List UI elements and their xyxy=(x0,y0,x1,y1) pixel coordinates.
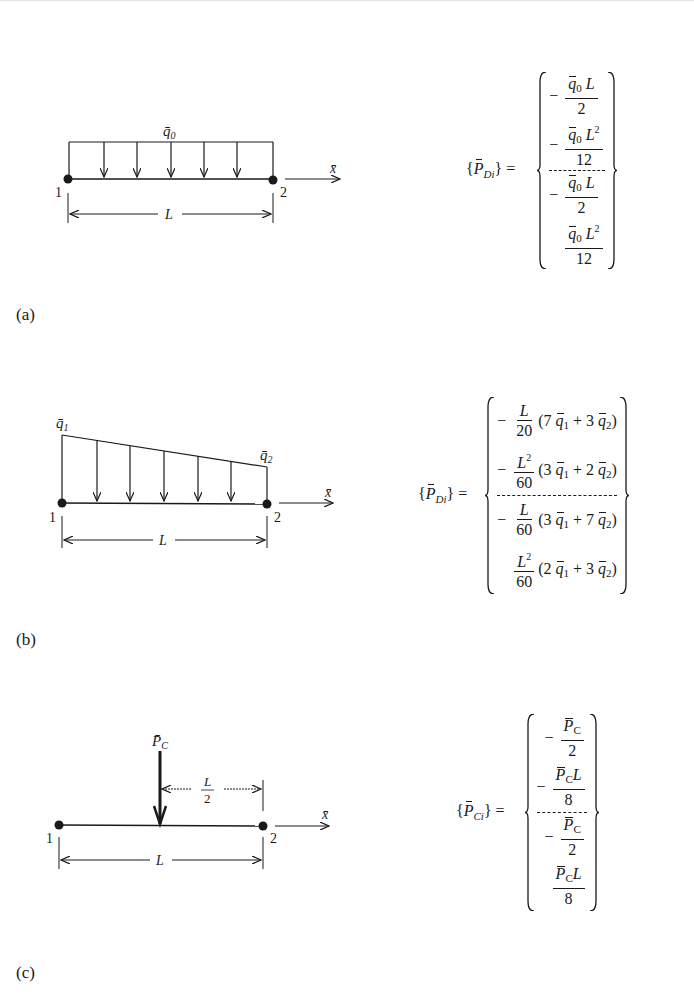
beam xyxy=(59,825,263,826)
node-1 xyxy=(64,175,73,184)
node-1 xyxy=(58,499,67,508)
equivalent-load-equation-b: {PDi} = −L20(7 q1 + 3 q2) −L260(3 q1 + 2… xyxy=(418,373,629,617)
left-brace xyxy=(525,714,535,911)
beam-diagram-linear-load: q̄1 q̄2 1 2 x̄ L xyxy=(0,340,360,580)
panel-a: q̄0 1 2 x̄ L {PDi} = −q0 L2 −q0 L212 −q0… xyxy=(0,0,694,330)
length-label: L xyxy=(158,533,167,548)
matrix-row-3: −L60(3 q1 + 7 q2) xyxy=(497,496,617,545)
load-label-q2: q̄2 xyxy=(260,447,273,465)
node-2-label: 2 xyxy=(274,510,281,525)
node-2 xyxy=(269,176,278,185)
x-axis-label: x̄ xyxy=(324,485,332,500)
right-brace xyxy=(607,72,617,269)
node-2-label: 2 xyxy=(280,185,287,200)
matrix-row-2: −q0 L212 xyxy=(549,121,604,170)
load-label-pc: P̄C xyxy=(151,733,168,751)
node-1 xyxy=(55,821,64,830)
matrix-row-1: −L20(7 q1 + 3 q2) xyxy=(497,397,617,446)
x-axis-label: x̄ xyxy=(329,161,337,176)
matrix-row-4: −q0 L212 xyxy=(549,220,604,269)
beam-diagram-uniform-load: q̄0 1 2 x̄ L xyxy=(0,0,360,240)
node-1-label: 1 xyxy=(55,185,62,200)
load-vector-matrix: −q0 L2 −q0 L212 −q0 L2 −q0 L212 xyxy=(537,72,616,269)
matrix-row-4: −PCL8 xyxy=(537,862,587,911)
load-vector-matrix: −L20(7 q1 + 3 q2) −L260(3 q1 + 2 q2) −L6… xyxy=(485,397,629,594)
lhs-force-vector: {PDi} = xyxy=(418,485,467,505)
right-brace xyxy=(589,714,599,911)
length-label: L xyxy=(155,853,164,868)
node-2 xyxy=(263,500,272,509)
node-1-label: 1 xyxy=(49,510,56,525)
panel-b: q̄1 q̄2 1 2 x̄ L {PDi} = −L20(7 q1 + 3 q… xyxy=(0,340,694,670)
node-1-label: 1 xyxy=(46,831,53,846)
matrix-row-1: −PC2 xyxy=(537,714,586,763)
equivalent-load-equation-c: {PCi} = −PC2 −PCL8 −PC2 −PCL8 xyxy=(456,690,599,934)
distributed-load xyxy=(69,142,273,179)
node-2-label: 2 xyxy=(270,831,277,846)
equivalent-load-equation-a: {PDi} = −q0 L2 −q0 L212 −q0 L2 −q0 L212 xyxy=(466,48,617,292)
x-axis-label: x̄ xyxy=(321,807,329,822)
matrix-row-2: −PCL8 xyxy=(537,763,587,812)
load-vector-matrix: −PC2 −PCL8 −PC2 −PCL8 xyxy=(525,714,599,911)
beam xyxy=(62,503,267,504)
matrix-row-3: −PC2 xyxy=(537,813,586,862)
left-brace xyxy=(485,397,495,594)
panel-label-a: (a) xyxy=(16,305,35,325)
matrix-row-3: −q0 L2 xyxy=(549,171,599,220)
load-label-q0: q̄0 xyxy=(163,123,176,141)
matrix-row-1: −q0 L2 xyxy=(549,72,599,121)
matrix-row-4: −L260(2 q1 + 3 q2) xyxy=(497,545,617,594)
node-2 xyxy=(259,822,268,831)
lhs-force-vector: {PCi} = xyxy=(456,802,505,822)
length-label: L xyxy=(164,207,173,222)
beam-diagram-concentrated-load: P̄C L 2 1 2 x̄ L xyxy=(0,660,360,900)
panel-label-c: (c) xyxy=(16,963,35,983)
panel-label-b: (b) xyxy=(16,630,36,650)
linear-distributed-load xyxy=(62,435,267,503)
right-brace xyxy=(619,397,629,594)
matrix-row-2: −L260(3 q1 + 2 q2) xyxy=(497,446,617,495)
lhs-force-vector: {PDi} = xyxy=(466,160,515,180)
load-label-q1: q̄1 xyxy=(56,415,69,433)
panel-c: P̄C L 2 1 2 x̄ L {PCi} = −PC2 xyxy=(0,660,694,1008)
left-brace xyxy=(537,72,547,269)
half-length-den: 2 xyxy=(204,791,211,806)
half-length-num: L xyxy=(203,774,211,789)
